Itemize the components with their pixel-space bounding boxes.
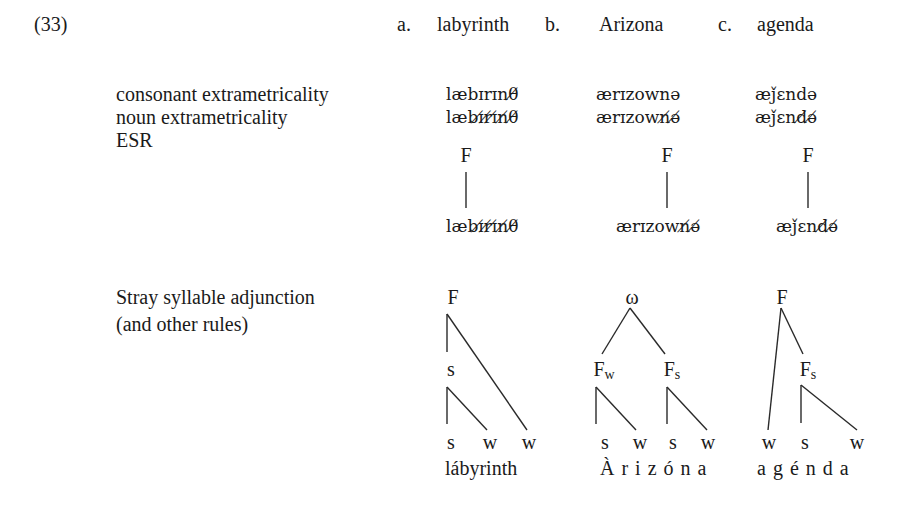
tree-b-right-foot-label: F <box>664 358 675 380</box>
tree-b-left-foot-sub: w <box>605 367 615 382</box>
tree-b-leaf-3: s <box>669 432 677 452</box>
tree-c-word: a g é n d a <box>757 458 850 478</box>
tree-b-left-foot-label: F <box>593 358 604 380</box>
tree-c-foot-sub: s <box>811 367 816 382</box>
tree-c-foot-label: F <box>800 358 811 380</box>
tree-b-right-foot: Fs <box>664 359 681 382</box>
tree-a-mid: s <box>447 359 455 379</box>
tree-b-leaf-4: w <box>701 432 715 452</box>
tree-c-foot: Fs <box>800 359 817 382</box>
tree-c-root: F <box>776 287 787 307</box>
tree-c-leaf-2: s <box>801 432 809 452</box>
tree-b-leaf-1: s <box>601 432 609 452</box>
tree-b-word: À r i z ó n a <box>600 458 707 478</box>
tree-b-leaf-2: w <box>633 432 647 452</box>
tree-a-leaf-2: w <box>483 432 497 452</box>
tree-a-root: F <box>447 287 458 307</box>
tree-b-right-foot-sub: s <box>675 367 680 382</box>
tree-a-word: lábyrinth <box>445 458 517 478</box>
tree-b-root: ω <box>625 287 638 307</box>
tree-c-leaf-1: w <box>762 432 776 452</box>
tree-a-leaf-3: w <box>522 432 536 452</box>
tree-c-leaf-3: w <box>850 432 864 452</box>
tree-a-leaf-1: s <box>447 432 455 452</box>
tree-b-left-foot: Fw <box>593 359 614 382</box>
